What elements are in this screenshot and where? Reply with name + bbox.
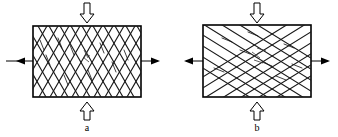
panel-a: a (5, 3, 178, 133)
horizontal-tension-left-arrow-b (184, 58, 203, 65)
vertical-compression-top-arrow-b (250, 3, 264, 23)
horizontal-tension-left-arrow-a (6, 58, 33, 65)
vertical-compression-bottom-arrow-a (80, 102, 94, 120)
vertical-compression-top-arrow-a (80, 3, 94, 23)
horizontal-tension-right-arrow-b (311, 58, 330, 65)
panel-label-a: a (85, 122, 90, 133)
horizontal-tension-right-arrow-a (141, 58, 160, 65)
fracture-diagram-figure: a (0, 0, 338, 137)
vertical-compression-bottom-arrow-b (250, 102, 264, 120)
panel-label-b: b (255, 122, 260, 133)
panel-b: b (184, 0, 330, 137)
figure-canvas: a (0, 0, 338, 137)
